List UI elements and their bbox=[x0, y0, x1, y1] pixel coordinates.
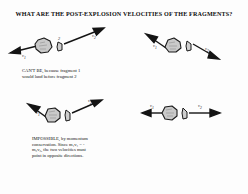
diagram-bottom-left: v1 v2 bbox=[0, 96, 124, 140]
fragment-1-shape-bottom-left bbox=[45, 108, 60, 122]
caption-bottom-left: IMPOSSIBLE, by momentum conservation. Si… bbox=[32, 136, 124, 158]
diagram-bottom-right: v1 v2 bbox=[124, 96, 248, 140]
v2-arrow-top-left bbox=[64, 28, 104, 44]
fragment-1-shape-top-left bbox=[35, 38, 52, 53]
v2-label-top-left: v2 bbox=[92, 33, 96, 40]
v2-arrow-bottom-left bbox=[72, 100, 102, 113]
v1-label-bottom-right: v1 bbox=[150, 103, 154, 110]
v2-label-bottom-left: v2 bbox=[88, 98, 92, 105]
v1-label-top-left: v1 bbox=[22, 53, 26, 60]
diagram-top-right: v1 v2 bbox=[124, 24, 248, 68]
v2-label-bottom-right: v2 bbox=[198, 103, 202, 110]
fragment-2-marker-top-left: 2 bbox=[58, 36, 60, 41]
fragment-1-shape-top-right bbox=[165, 38, 181, 52]
caption-top-left: CAN'T BE, because fragment 1 would land … bbox=[22, 68, 122, 79]
fragment-2-shape-bottom-right bbox=[182, 108, 187, 119]
panel-top-right: v1 v2 CAN'T BE, because fragment 2 would… bbox=[124, 24, 248, 96]
fragment-1-shape-bottom-right bbox=[162, 106, 177, 120]
v2-label-top-right: v2 bbox=[205, 46, 209, 53]
figure-title: WHAT ARE THE POST-EXPLOSION VELOCITIES O… bbox=[0, 11, 248, 17]
diagram-top-left: v1 v2 2 bbox=[0, 24, 124, 68]
figure-canvas: WHAT ARE THE POST-EXPLOSION VELOCITIES O… bbox=[0, 0, 248, 194]
v1-arrow-bottom-right bbox=[142, 110, 162, 117]
caption-top-left-line-2: would land before fragment 2 bbox=[22, 74, 122, 80]
fragment-2-shape-top-right bbox=[186, 41, 191, 51]
caption-bottom-left-line-4: point in opposite directions. bbox=[32, 153, 124, 159]
fragment-2-shape-bottom-left bbox=[65, 110, 70, 121]
v1-label-bottom-left: v1 bbox=[36, 110, 40, 117]
v2-arrow-bottom-right bbox=[189, 109, 220, 117]
panel-bottom-left: v1 v2 IMPOSSIBLE, by momentum conservati… bbox=[0, 96, 124, 168]
fragment-2-shape-top-left bbox=[57, 42, 62, 51]
panel-top-left: v1 v2 2 CAN'T BE, because fragment 1 wou… bbox=[0, 24, 124, 96]
v1-label-top-right: v1 bbox=[153, 43, 157, 50]
panel-bottom-right: v1 v2 THIS MUST BE IT, because the other… bbox=[124, 96, 248, 168]
